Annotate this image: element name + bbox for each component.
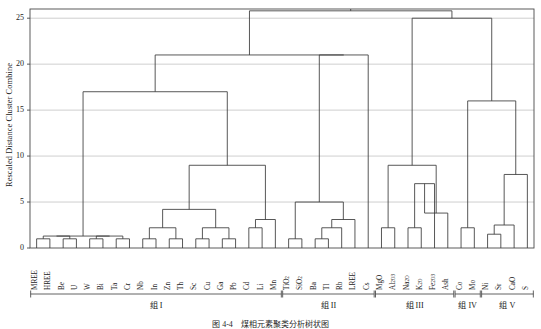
dendrogram-link: [408, 228, 421, 248]
dendrogram-link: [295, 202, 343, 239]
y-tick-label: 25: [8, 13, 24, 22]
leaf-label: Ni: [483, 250, 490, 290]
group-label-3: 组 III: [376, 298, 454, 310]
leaf-label: Mn: [271, 250, 278, 290]
leaf-label: Th: [178, 250, 185, 290]
dendrogram-link: [189, 165, 265, 219]
leaf-label: Be: [59, 250, 66, 290]
dendrogram-link: [412, 18, 492, 165]
group-label-5: 组 V: [482, 298, 534, 310]
leaf-label: Cd: [244, 250, 251, 290]
y-tick-label: 0: [8, 243, 24, 252]
dendrogram-link: [289, 239, 302, 248]
leaf-label: Mo: [470, 250, 477, 290]
leaf-label: Na2O: [404, 250, 411, 290]
dendrogram-link: [494, 225, 514, 248]
dendrogram-link: [222, 239, 235, 248]
dendrogram-link: [83, 92, 227, 236]
dendrogram-link: [149, 228, 176, 239]
leaf-label: MgO: [377, 250, 384, 290]
leaf-label: Cs: [364, 250, 371, 290]
dendrogram-link: [116, 239, 129, 248]
dendrogram-link: [196, 239, 209, 248]
leaf-label: HREE: [45, 250, 52, 290]
leaf-label: Co: [457, 250, 464, 290]
leaf-label: Sc: [191, 250, 198, 290]
group-label-2: 组 II: [283, 298, 375, 310]
leaf-label: Nb: [138, 250, 145, 290]
leaf-label: MREE: [32, 250, 39, 290]
dendrogram-link: [169, 239, 182, 248]
dendrogram-link: [468, 101, 516, 228]
dendrogram-link: [504, 174, 527, 248]
dendrogram-link: [155, 55, 344, 92]
leaf-label: Pb: [231, 250, 238, 290]
plot-frame: [30, 9, 534, 248]
figure-caption: 图 4-4 煤相元素聚类分析树状图: [0, 318, 541, 329]
dendrogram-links: [37, 9, 528, 248]
y-tick-label: 10: [8, 151, 24, 160]
leaf-label: Ba: [311, 250, 318, 290]
leaf-label: K2O: [417, 250, 424, 290]
dendrogram-link: [37, 239, 50, 248]
leaf-label: Zn: [165, 250, 172, 290]
y-tick-label: 20: [8, 59, 24, 68]
leaf-label: Al2O3: [390, 250, 397, 290]
leaf-label: S: [523, 250, 530, 290]
dendrogram-link: [322, 228, 342, 248]
dendrogram-link: [249, 228, 262, 248]
dendrogram-link: [249, 11, 451, 55]
dendrogram-link: [90, 239, 103, 248]
dendrogram-link: [255, 220, 275, 249]
y-tick-label: 5: [8, 197, 24, 206]
dendrogram-link: [488, 234, 501, 248]
leaf-label: In: [152, 250, 159, 290]
leaf-label: Bi: [98, 250, 105, 290]
leaf-label: W: [85, 250, 92, 290]
dendrogram-link: [388, 165, 436, 228]
dendrogram-link: [381, 228, 394, 248]
leaf-label: Fe2O3: [430, 250, 437, 290]
dendrogram-link: [315, 239, 328, 248]
dendrogram-link: [461, 228, 474, 248]
dendrogram-figure: Rescaled Distance Cluster Combine 051015…: [0, 0, 541, 329]
y-tick-label: 15: [8, 105, 24, 114]
leaf-label: Tl: [324, 250, 331, 290]
dendrogram-link: [202, 228, 229, 239]
leaf-label: SiO2: [297, 250, 304, 290]
dendrogram-link: [63, 239, 76, 248]
leaf-label: Sr: [496, 250, 503, 290]
dendrogram-link: [143, 239, 156, 248]
leaf-label: Li: [258, 250, 265, 290]
leaf-label: Ash: [443, 250, 450, 290]
leaf-label: LREE: [350, 250, 357, 290]
leaf-label: Cr: [125, 250, 132, 290]
leaf-label: Ga: [218, 250, 225, 290]
dendrogram-link: [332, 220, 355, 249]
leaf-label: Cu: [205, 250, 212, 290]
leaf-label: TiO2: [284, 250, 291, 290]
leaf-label: U: [72, 250, 79, 290]
dendrogram-link: [163, 209, 216, 227]
leaf-label: Ta: [112, 250, 119, 290]
group-label-1: 组 I: [31, 298, 282, 310]
group-label-4: 组 IV: [455, 298, 480, 310]
leaf-label: Rb: [337, 250, 344, 290]
leaf-label: CaO: [510, 250, 517, 290]
